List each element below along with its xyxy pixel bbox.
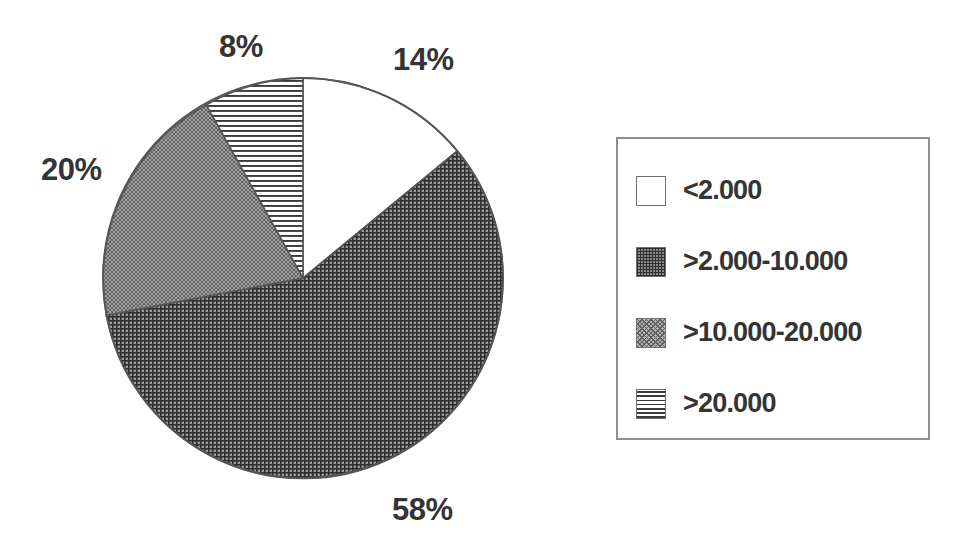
legend-item-lt-2000[interactable]: <2.000 [636, 155, 916, 226]
legend-item-gt-20000[interactable]: >20.000 [636, 368, 916, 439]
legend-items-list: <2.000 >2.000-10.000 >10.000-20.000 >20.… [636, 155, 916, 439]
slice-percent-label-2000-10000: 58% [392, 494, 453, 525]
legend-box: <2.000 >2.000-10.000 >10.000-20.000 >20.… [616, 137, 930, 440]
legend-item-label: >2.000-10.000 [683, 248, 848, 275]
pie-chart-figure: 14% 58% 20% 8% <2.000 >2.000-10.000 >10.… [0, 0, 975, 546]
pie-chart-area: 14% 58% 20% 8% [0, 0, 560, 546]
slice-percent-label-10000-20000: 20% [41, 154, 102, 185]
pie-chart-svg [0, 0, 560, 546]
legend-item-label: >10.000-20.000 [683, 319, 862, 346]
legend-swatch-gray-diagonal-weave-icon [636, 318, 666, 348]
legend-item-10000-20000[interactable]: >10.000-20.000 [636, 297, 916, 368]
legend-item-label: <2.000 [683, 177, 762, 204]
slice-percent-label-lt-2000: 14% [393, 44, 454, 75]
slice-percent-label-gt-20000: 8% [219, 31, 263, 62]
legend-item-2000-10000[interactable]: >2.000-10.000 [636, 226, 916, 297]
legend-swatch-solid-white-icon [636, 176, 666, 206]
legend-item-label: >20.000 [683, 390, 776, 417]
legend-swatch-dark-cross-grid-icon [636, 247, 666, 277]
legend-swatch-horizontal-lines-icon [636, 389, 666, 419]
